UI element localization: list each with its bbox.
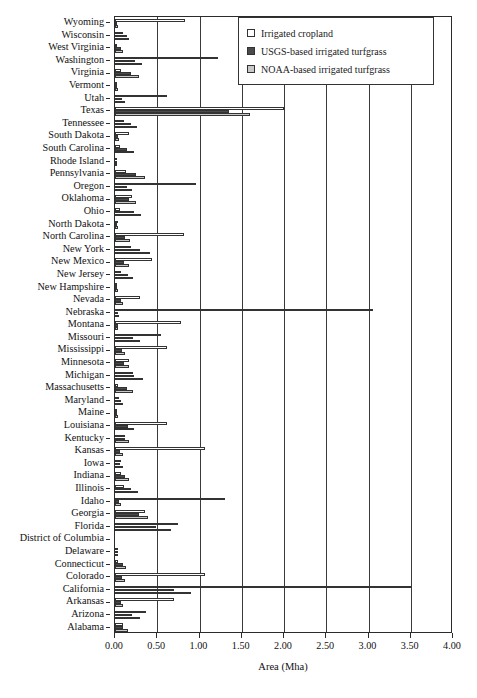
bar [115,629,128,632]
y-axis-label: Arizona [71,609,104,619]
bar [115,579,125,582]
y-axis-tick [106,362,110,363]
x-axis-tick-label: 4.00 [432,640,472,651]
bar [115,151,134,154]
x-axis-tick [241,633,242,638]
y-axis-tick [106,73,110,74]
y-axis-tick [106,249,110,250]
bar [115,592,191,595]
y-axis-label: South Carolina [43,143,104,153]
bar [115,309,373,312]
y-axis-tick [106,539,110,540]
y-axis-tick [106,564,110,565]
y-axis-tick [106,287,110,288]
bar [115,201,136,204]
y-axis-tick [106,425,110,426]
y-axis-tick [106,576,110,577]
bar [115,365,129,368]
bar [115,498,225,501]
y-axis-tick [106,413,110,414]
x-axis-tick-label: 1.50 [221,640,261,651]
y-axis-label: Florida [75,521,104,531]
bar [115,302,123,305]
y-axis-label: Minnesota [61,357,104,367]
y-axis-label: District of Columbia [20,533,104,543]
y-axis-label: Colorado [66,571,104,581]
y-axis-label: California [63,584,104,594]
y-axis-label: Arkansas [66,596,104,606]
y-axis-tick [106,22,110,23]
y-axis-tick [106,627,110,628]
y-axis-tick [106,262,110,263]
x-axis-tick [199,633,200,638]
y-axis-label: Tennessee [62,118,104,128]
legend-swatch-noaa-icon [247,65,255,73]
bar [115,403,123,406]
y-axis-tick [106,463,110,464]
y-axis-label: Nebraska [66,307,104,317]
bar [115,183,196,186]
bar [115,252,150,255]
gridline [411,17,412,632]
bar [115,566,126,569]
legend-swatch-cropland-icon [247,29,255,37]
y-axis-tick [106,299,110,300]
y-axis-label: Connecticut [55,559,104,569]
y-axis-label: Ohio [84,206,104,216]
y-axis-tick [106,325,110,326]
y-axis-tick [106,400,110,401]
y-axis-labels: WyomingWisconsinWest VirginiaWashingtonV… [0,16,110,633]
y-axis-label: Nevada [73,294,104,304]
y-axis-tick [106,161,110,162]
y-axis-tick [106,602,110,603]
bar [115,239,130,242]
y-axis-tick [106,614,110,615]
y-axis-tick [106,551,110,552]
y-axis-tick [106,98,110,99]
x-axis-tick [410,633,411,638]
bar [115,378,143,381]
bar [115,604,123,607]
y-axis-tick [106,110,110,111]
gridline [326,17,327,632]
y-axis-label: Utah [84,93,104,103]
y-axis-label: Maine [78,407,104,417]
bar [115,554,118,557]
y-axis-label: Pennsylvania [50,168,104,178]
y-axis-tick [106,123,110,124]
plot-area [114,16,452,633]
bar [115,478,129,481]
y-axis-label: Louisiana [64,420,104,430]
y-axis-label: Oregon [73,181,104,191]
bar [115,113,250,116]
bar [115,163,117,166]
y-axis-tick [106,513,110,514]
bar [115,95,167,98]
x-axis-tick-label: 3.00 [348,640,388,651]
y-axis-label: Rhode Island [50,156,104,166]
y-axis-label: Iowa [84,458,104,468]
x-axis-tick [452,633,453,638]
y-axis-label: Illinois [75,483,104,493]
y-axis-tick [106,438,110,439]
y-axis-label: Michigan [65,370,104,380]
legend: Irrigated cropland USGS-based irrigated … [238,17,434,85]
y-axis-tick [106,173,110,174]
y-axis-label: Wisconsin [61,30,104,40]
y-axis-label: Kansas [75,445,104,455]
bar [115,126,137,129]
legend-item: USGS-based irrigated turfgrass [247,42,425,60]
y-axis-label: Montana [68,319,104,329]
y-axis-tick [106,337,110,338]
y-axis-label: Idaho [81,496,104,506]
bar [115,346,167,349]
y-axis-label: Vermont [69,80,104,90]
y-axis-label: New York [63,244,104,254]
bar [115,189,132,192]
y-axis-tick [106,60,110,61]
y-axis-label: Virginia [71,67,104,77]
y-axis-tick [106,375,110,376]
bar [115,63,142,66]
y-axis-label: South Dakota [48,130,104,140]
legend-label: USGS-based irrigated turfgrass [261,46,387,57]
